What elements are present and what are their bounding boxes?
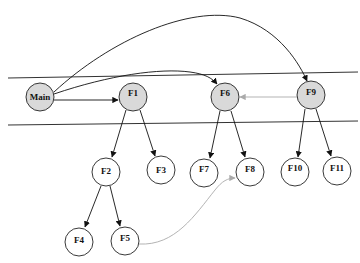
- node-f5[interactable]: F5: [111, 227, 139, 255]
- edge-f6-f8: [231, 111, 245, 157]
- svg-text:F10: F10: [288, 163, 303, 173]
- svg-text:F5: F5: [120, 233, 130, 243]
- svg-text:F3: F3: [156, 165, 166, 175]
- svg-text:F2: F2: [101, 166, 111, 176]
- svg-text:F6: F6: [220, 88, 230, 98]
- node-f7[interactable]: F7: [190, 159, 218, 187]
- edge-f2-f4: [85, 186, 101, 227]
- node-f8[interactable]: F8: [236, 158, 264, 186]
- edge-f2-f5: [110, 186, 120, 226]
- svg-text:F9: F9: [306, 87, 316, 97]
- edge-f1-f2: [112, 110, 126, 157]
- edge-f9-f10: [298, 109, 305, 157]
- node-f11[interactable]: F11: [323, 157, 351, 185]
- edge-f9-f11: [316, 109, 331, 156]
- svg-text:F7: F7: [199, 164, 209, 174]
- edge-main-f9: [54, 15, 307, 92]
- node-f6[interactable]: F6: [211, 83, 239, 111]
- svg-text:F8: F8: [245, 164, 255, 174]
- edge-f5-f8: [139, 178, 235, 244]
- svg-text:F1: F1: [128, 88, 138, 98]
- edge-f1-f3: [140, 110, 155, 156]
- edge-f6-f7: [210, 111, 220, 158]
- node-f10[interactable]: F10: [281, 158, 309, 186]
- node-f4[interactable]: F4: [65, 228, 93, 256]
- call-graph-diagram: Main F1 F6 F9 F2 F3 F7 F8 F10 F11 F4 F5: [0, 0, 360, 263]
- svg-text:Main: Main: [30, 92, 51, 102]
- svg-text:F4: F4: [74, 235, 84, 245]
- node-f9[interactable]: F9: [297, 81, 325, 109]
- band-bottom-line: [8, 121, 358, 125]
- node-f3[interactable]: F3: [147, 156, 175, 184]
- node-f2[interactable]: F2: [92, 158, 120, 186]
- node-f1[interactable]: F1: [119, 83, 147, 111]
- svg-text:F11: F11: [330, 163, 345, 173]
- node-main[interactable]: Main: [26, 83, 54, 111]
